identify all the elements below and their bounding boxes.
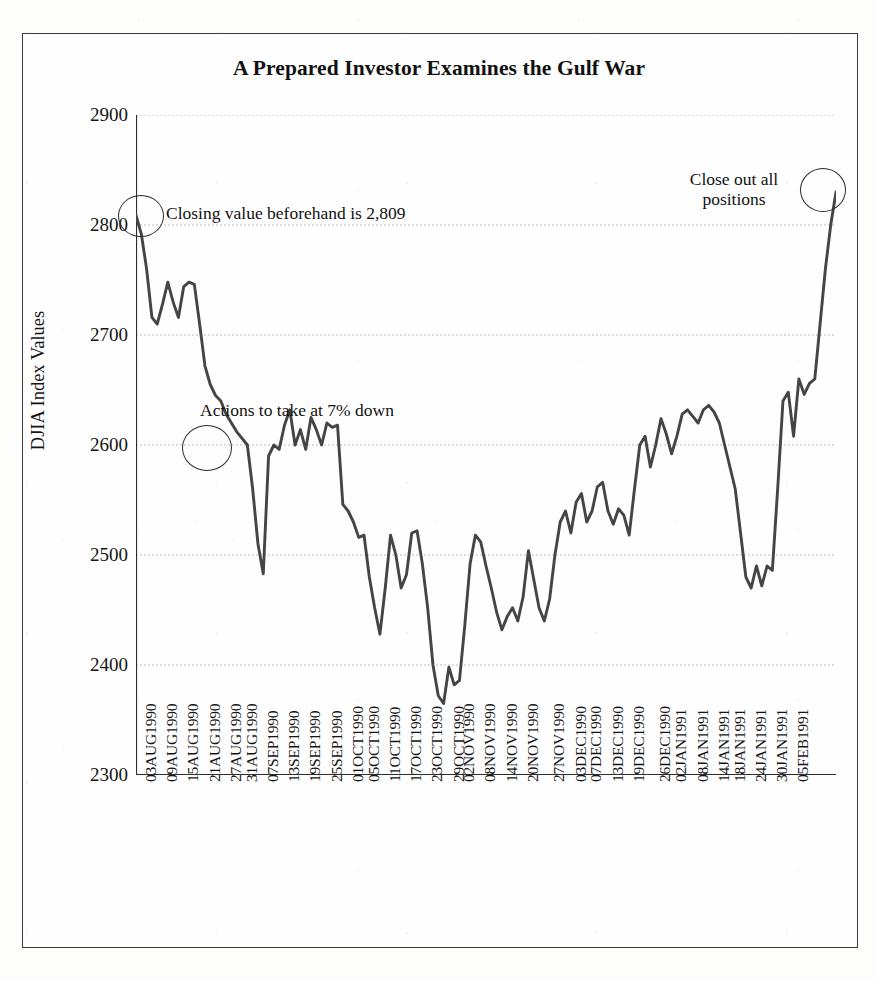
x-tick-label: 20NOV1990 [524,704,542,782]
page-title: A Prepared Investor Examines the Gulf Wa… [0,56,878,81]
page-canvas: A Prepared Investor Examines the Gulf Wa… [0,0,878,981]
x-tick-label: 09AUG1990 [163,704,181,782]
x-tick-label: 11OCT1990 [386,707,404,782]
annotation-circle-close-out [800,168,846,212]
x-tick-label: 02JAN1991 [672,709,690,782]
x-tick-label: 07SEP1990 [264,711,282,782]
x-tick-label: 14NOV1990 [503,704,521,782]
y-axis-title: DJIA Index Values [28,271,49,491]
x-tick-label: 15AUG1990 [184,704,202,782]
x-tick-label: 25SEP1990 [328,711,346,782]
x-tick-label: 05OCT1990 [365,706,383,782]
x-tick-label: 19DEC1990 [630,706,648,782]
x-tick-label: 31AUG1990 [243,704,261,782]
x-tick-label: 03AUG1990 [142,704,160,782]
y-tick-label: 2700 [58,325,128,344]
x-tick-label: 27NOV1990 [550,704,568,782]
y-tick-label: 2500 [58,545,128,564]
x-tick-label: 07DEC1990 [587,706,605,782]
y-tick-label: 2300 [58,765,128,784]
x-tick-label: 13DEC1990 [609,706,627,782]
annotation-circle-seven-percent [182,425,232,471]
x-tick-label: 19SEP1990 [306,711,324,782]
y-tick-label: 2900 [58,105,128,124]
annotation-circle-open [118,195,164,237]
x-tick-label: 30JAN1991 [773,709,791,782]
annotation-closing-value: Closing value beforehand is 2,809 [166,203,406,223]
y-tick-label: 2400 [58,655,128,674]
x-tick-label: 21AUG1990 [206,704,224,782]
x-tick-label: 02NOV1990 [460,704,478,782]
x-tick-label: 13SEP1990 [285,711,303,782]
x-tick-label: 24JAN1991 [752,709,770,782]
y-tick-label: 2600 [58,435,128,454]
x-tick-label: 23OCT1990 [428,706,446,782]
x-tick-label: 18JAN1991 [731,709,749,782]
x-tick-label: 05FEB1991 [794,709,812,782]
x-axis-tick-labels: 03AUG199009AUG199015AUG199021AUG199027AU… [136,782,836,932]
x-tick-label: 17OCT1990 [407,706,425,782]
annotation-close-out: Close out all positions [674,169,794,209]
x-tick-label: 08JAN1991 [694,709,712,782]
djia-series-line [136,192,836,704]
x-tick-label: 08NOV1990 [481,704,499,782]
annotation-seven-percent: Actions to take at 7% down [200,400,394,420]
